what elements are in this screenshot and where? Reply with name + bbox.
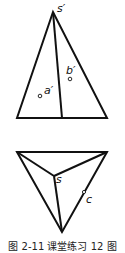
point-a-prime-marker <box>38 94 42 98</box>
top-view-outline <box>17 152 107 232</box>
top-view-edge-left <box>17 152 54 176</box>
apex-label-top: s <box>56 174 62 185</box>
front-view-outline <box>17 12 107 118</box>
point-a-prime-label: a′ <box>44 85 53 96</box>
top-view <box>17 152 107 232</box>
point-b-prime-marker <box>68 77 72 81</box>
figure-caption: 图 2-11 课堂练习 12 图 <box>0 238 125 253</box>
front-view <box>17 12 107 118</box>
point-c-label: c <box>86 194 92 205</box>
apex-label-front: s′ <box>57 3 65 14</box>
point-b-prime-label: b′ <box>66 65 75 76</box>
